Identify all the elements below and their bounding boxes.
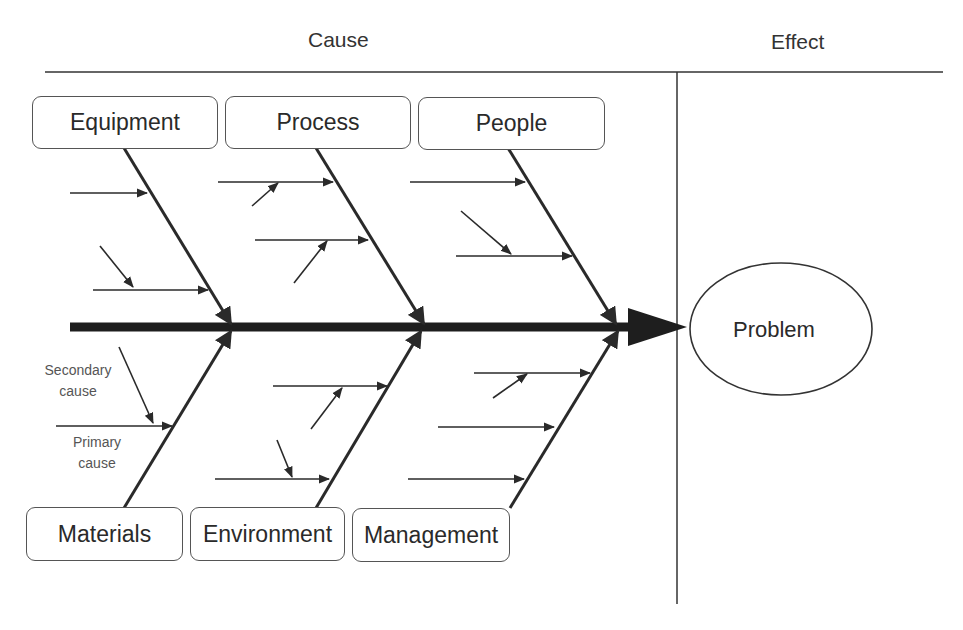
secondary-cause-line1: Secondary — [28, 360, 128, 381]
primary-cause-label: Primary cause — [58, 432, 136, 474]
category-equipment: Equipment — [32, 96, 218, 149]
primary-cause-line2: cause — [58, 453, 136, 474]
secondary-cause — [311, 388, 342, 429]
category-materials: Materials — [26, 507, 183, 561]
secondary-cause-label: Secondary cause — [28, 360, 128, 402]
bone-equipment — [124, 148, 231, 324]
secondary-cause — [294, 241, 327, 283]
bone-materials — [124, 331, 231, 508]
category-process: Process — [225, 96, 411, 149]
primary-cause-line1: Primary — [58, 432, 136, 453]
bone-environment — [316, 331, 421, 508]
secondary-cause — [493, 374, 527, 398]
bone-people — [508, 148, 616, 324]
problem-label: Problem — [733, 317, 815, 343]
category-people: People — [418, 97, 605, 150]
secondary-cause — [277, 440, 292, 477]
category-environment: Environment — [190, 507, 345, 561]
secondary-cause — [461, 211, 511, 254]
secondary-cause-line2: cause — [28, 381, 128, 402]
category-management: Management — [352, 508, 510, 562]
secondary-cause — [252, 183, 278, 206]
bone-process — [316, 148, 424, 324]
spine-arrowhead — [628, 308, 687, 346]
bone-management — [510, 331, 618, 508]
secondary-cause — [100, 246, 133, 287]
